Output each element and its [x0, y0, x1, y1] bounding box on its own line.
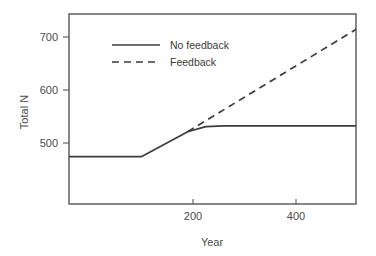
y-axis-ticks — [63, 37, 69, 143]
y-tick-label-600: 600 — [40, 84, 58, 96]
legend-label-no-feedback: No feedback — [170, 39, 230, 51]
y-axis-title: Total N — [18, 95, 30, 129]
y-tick-label-700: 700 — [40, 31, 58, 43]
legend-label-feedback: Feedback — [170, 56, 217, 68]
y-tick-label-500: 500 — [40, 137, 58, 149]
series-line-no-feedback — [69, 126, 356, 157]
x-tick-label-200: 200 — [184, 210, 202, 222]
chart-figure: 700 600 500 200 400 Total N Year No feed… — [0, 0, 376, 256]
x-tick-label-400: 400 — [287, 210, 305, 222]
chart-legend: No feedback Feedback — [112, 39, 230, 68]
x-axis-ticks — [193, 199, 296, 204]
line-chart: 700 600 500 200 400 Total N Year No feed… — [0, 0, 376, 256]
x-axis-title: Year — [201, 236, 224, 248]
